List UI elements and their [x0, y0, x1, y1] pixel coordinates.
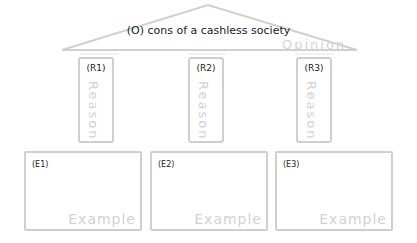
reason-label: (R1): [80, 63, 112, 73]
opinion-watermark: Opinion: [282, 37, 346, 52]
reason-pillar-3: (R3) Reason: [296, 57, 332, 143]
reason-pillar-2: (R2) Reason: [188, 57, 224, 143]
reason-label: (R3): [298, 63, 330, 73]
reason-watermark: Reason: [304, 81, 319, 140]
example-watermark: Example: [194, 211, 262, 227]
example-label: (E1): [32, 160, 48, 169]
reason-watermark: Reason: [86, 81, 101, 140]
reason-watermark: Reason: [196, 81, 211, 140]
example-box-3: (E3) Example: [275, 151, 393, 231]
example-box-1: (E1) Example: [24, 151, 142, 231]
opinion-label: (O) cons of a cashless society: [0, 24, 417, 37]
reason-label: (R2): [190, 63, 222, 73]
reason-pillar-1: (R1) Reason: [78, 57, 114, 143]
example-watermark: Example: [319, 211, 387, 227]
example-label: (E2): [158, 160, 174, 169]
example-box-2: (E2) Example: [150, 151, 268, 231]
example-label: (E3): [283, 160, 299, 169]
example-watermark: Example: [68, 211, 136, 227]
